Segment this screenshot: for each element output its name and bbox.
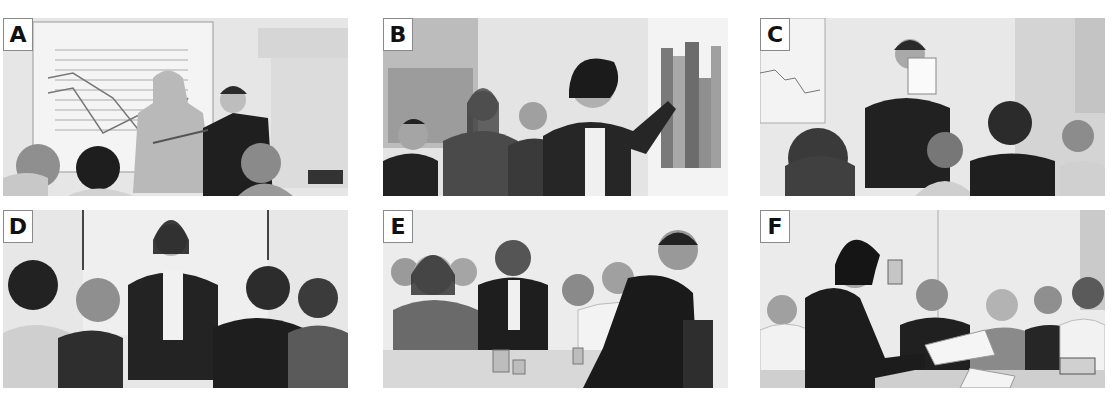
illustration-panel-c: C — [760, 18, 1105, 196]
product-presentation-illustration — [760, 210, 1105, 388]
panel-label-c: C — [760, 18, 790, 51]
illustration-panel-a: A — [3, 18, 348, 196]
illustration-panel-b: B — [383, 18, 728, 196]
panel-label-f: F — [760, 210, 790, 243]
panel-label-d: D — [3, 210, 33, 243]
panel-label-b: B — [383, 18, 413, 51]
presentation-bar-chart-illustration — [383, 18, 728, 196]
presenter-reading-paper-illustration — [760, 18, 1105, 196]
presentation-line-chart-illustration — [3, 18, 348, 196]
illustration-panel-d: D — [3, 210, 348, 388]
illustration-panel-e: E — [383, 210, 728, 388]
panel-label-a: A — [3, 18, 33, 51]
panel-label-e: E — [383, 210, 413, 243]
illustration-panel-f: F — [760, 210, 1105, 388]
presenter-standing-illustration — [3, 210, 348, 388]
interview-panel-illustration — [383, 210, 728, 388]
